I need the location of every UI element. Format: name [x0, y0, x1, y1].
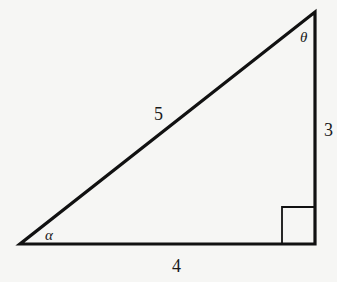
horizontal-leg-label: 4	[172, 256, 181, 276]
angle-theta-label: θ	[300, 29, 308, 45]
triangle-outline	[20, 12, 315, 244]
vertical-leg-label: 3	[324, 120, 333, 140]
hypotenuse-label: 5	[154, 104, 163, 124]
right-angle-marker	[282, 207, 315, 244]
angle-alpha-label: α	[45, 227, 54, 243]
right-triangle-diagram: 5 3 4 θ α	[0, 0, 337, 282]
